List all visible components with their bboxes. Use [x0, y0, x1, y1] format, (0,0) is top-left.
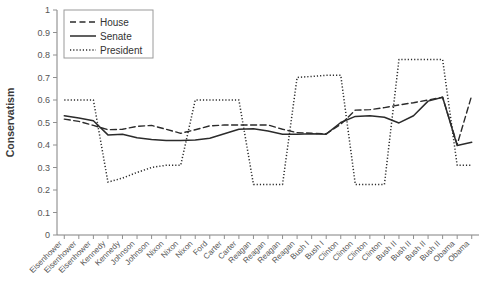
series-line-senate: [64, 97, 471, 145]
y-tick-label: 0.2: [37, 185, 50, 195]
y-tick-label: 0.5: [37, 118, 50, 128]
y-tick-label: 1: [45, 5, 50, 15]
legend-label-senate: Senate: [100, 31, 132, 42]
y-tick-label: 0.7: [37, 73, 50, 83]
y-tick-label: 0.8: [37, 50, 50, 60]
chart-canvas: 00.10.20.30.40.50.60.70.80.91Conservatis…: [0, 0, 486, 294]
series-line-house: [64, 96, 471, 145]
y-tick-label: 0.4: [37, 140, 50, 150]
legend-label-president: President: [100, 45, 142, 56]
y-tick-label: 0.6: [37, 95, 50, 105]
y-axis-title: Conservatism: [4, 88, 16, 157]
y-tick-label: 0: [45, 230, 50, 240]
y-tick-label: 0.3: [37, 163, 50, 173]
series-line-president: [64, 60, 471, 185]
conservatism-line-chart: 00.10.20.30.40.50.60.70.80.91Conservatis…: [0, 0, 486, 294]
legend-label-house: House: [100, 17, 129, 28]
y-tick-label: 0.1: [37, 208, 50, 218]
y-tick-label: 0.9: [37, 28, 50, 38]
